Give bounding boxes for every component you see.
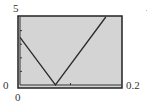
graph-screen (0, 0, 150, 105)
plot-frame (18, 16, 122, 88)
